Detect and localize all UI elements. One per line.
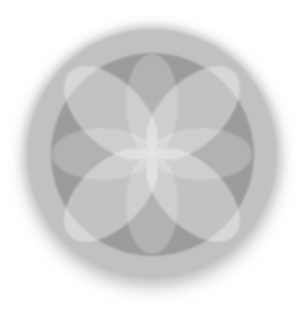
rosette-figure <box>0 0 306 313</box>
rosette-scene <box>0 0 306 313</box>
